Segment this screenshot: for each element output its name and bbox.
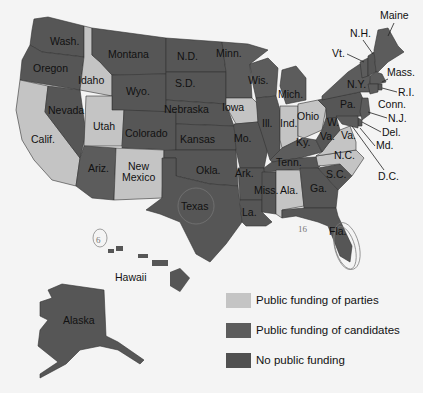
- annotation-hawaii-number: 6: [96, 235, 101, 245]
- label-utah: Utah: [93, 120, 115, 132]
- label-kansas: Kansas: [180, 133, 215, 145]
- legend-item-candidates: Public funding of candidates: [226, 322, 400, 338]
- legend-label-candidates: Public funding of candidates: [256, 324, 400, 336]
- label-colorado: Colorado: [125, 127, 168, 139]
- label-ill: Ill.: [262, 117, 273, 129]
- label-wash: Wash.: [50, 35, 79, 47]
- label-ala: Ala.: [280, 184, 298, 196]
- label-minn: Minn.: [216, 47, 242, 59]
- state-alaska[interactable]: [38, 284, 144, 378]
- label-texas: Texas: [181, 200, 208, 212]
- state-maryland[interactable]: [336, 116, 358, 128]
- legend-label-none: No public funding: [256, 354, 345, 366]
- label-dc: D.C.: [378, 170, 399, 182]
- label-mo: Mo.: [234, 132, 252, 144]
- state-rhode-island[interactable]: [378, 84, 382, 90]
- label-oregon: Oregon: [33, 62, 68, 74]
- label-ga: Ga.: [310, 182, 327, 194]
- label-ri: R.I.: [398, 86, 414, 98]
- label-wis: Wis.: [248, 74, 268, 86]
- label-nh: N.H.: [350, 27, 371, 39]
- annotation-florida-number: 16: [298, 224, 308, 234]
- label-idaho: Idaho: [78, 74, 104, 86]
- legend-label-parties: Public funding of parties: [256, 294, 379, 306]
- label-md: Md.: [376, 139, 394, 151]
- legend-swatch-candidates: [226, 323, 251, 338]
- label-conn: Conn.: [378, 98, 406, 110]
- label-ohio: Ohio: [297, 110, 319, 122]
- legend-item-none: No public funding: [226, 352, 400, 368]
- label-mich: Mich.: [278, 88, 303, 100]
- label-tenn: Tenn.: [276, 156, 302, 168]
- label-nd: N.D.: [177, 50, 198, 62]
- label-wva-2: Va.: [320, 130, 335, 142]
- label-ny: N.Y.: [347, 78, 366, 90]
- label-ind: Ind.: [280, 117, 298, 129]
- label-mass: Mass.: [387, 66, 415, 78]
- label-wva-1: W.: [327, 116, 339, 128]
- label-maine: Maine: [380, 9, 409, 21]
- label-ariz: Ariz.: [88, 162, 109, 174]
- label-la: La.: [242, 206, 257, 218]
- label-montana: Montana: [108, 48, 149, 60]
- label-iowa: Iowa: [222, 101, 244, 113]
- label-nevada: Nevada: [48, 104, 84, 116]
- label-okla: Okla.: [196, 164, 221, 176]
- state-connecticut[interactable]: [368, 84, 378, 94]
- label-hawaii: Hawaii: [115, 271, 147, 283]
- legend-item-parties: Public funding of parties: [226, 292, 400, 308]
- label-wyo: Wyo.: [126, 85, 150, 97]
- label-pa: Pa.: [340, 98, 356, 110]
- label-del: Del.: [382, 126, 401, 138]
- label-ky: Ky.: [296, 136, 310, 148]
- state-new-jersey[interactable]: [360, 98, 370, 120]
- label-alaska: Alaska: [63, 314, 95, 326]
- label-vt: Vt.: [332, 47, 345, 59]
- label-va: Va.: [341, 129, 356, 141]
- state-delaware[interactable]: [358, 118, 362, 126]
- label-fla: Fla.: [329, 225, 347, 237]
- label-sc: S.C.: [326, 168, 346, 180]
- label-new-mexico-2: Mexico: [122, 171, 155, 183]
- label-nebraska: Nebraska: [164, 103, 209, 115]
- map-legend: Public funding of parties Public funding…: [226, 292, 400, 382]
- label-nj: N.J.: [388, 112, 407, 124]
- label-calif: Calif.: [31, 133, 55, 145]
- label-ark: Ark.: [235, 167, 254, 179]
- label-miss: Miss.: [254, 184, 279, 196]
- legend-swatch-none: [226, 353, 251, 368]
- legend-swatch-parties: [226, 293, 251, 308]
- label-nc: N.C.: [334, 149, 355, 161]
- label-sd: S.D.: [175, 77, 195, 89]
- state-hawaii[interactable]: [108, 246, 190, 292]
